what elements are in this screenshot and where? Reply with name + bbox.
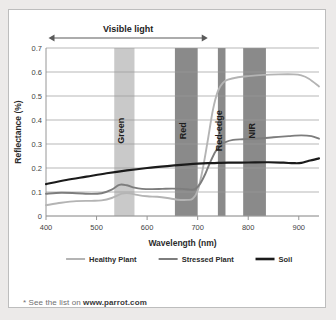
reflectance-chart: 00.10.20.30.40.50.60.7400500600700800900… (9, 10, 327, 272)
y-tick-label: 0 (38, 212, 42, 221)
band-label-red-edge: Red-edge (214, 110, 224, 151)
y-tick-label: 0.7 (32, 44, 42, 53)
x-tick-label: 500 (90, 223, 103, 232)
x-tick-label: 800 (242, 223, 255, 232)
x-axis-title: Wavelength (nm) (148, 238, 216, 248)
x-tick-label: 900 (293, 223, 306, 232)
legend-label-stressed-plant: Stressed Plant (182, 255, 235, 264)
legend-label-healthy-plant: Healthy Plant (89, 255, 137, 264)
band-label-red: Red (178, 122, 188, 139)
y-tick-label: 0.3 (32, 140, 42, 149)
visible-light-label: Visible light (103, 24, 153, 34)
y-tick-label: 0.5 (32, 92, 42, 101)
band-label-green: Green (116, 118, 126, 144)
band-label-nir: NIR (247, 123, 257, 139)
legend-label-soil: Soil (279, 255, 293, 264)
x-tick-label: 400 (40, 223, 53, 232)
y-tick-label: 0.4 (32, 116, 42, 125)
y-axis-title: Reflectance (%) (13, 100, 23, 163)
x-tick-label: 600 (141, 223, 154, 232)
chart-card: 00.10.20.30.40.50.60.7400500600700800900… (8, 9, 326, 308)
chart-area: 00.10.20.30.40.50.60.7400500600700800900… (9, 10, 327, 272)
y-tick-label: 0.2 (32, 164, 42, 173)
footnote-link[interactable]: www.parrot.com (83, 298, 147, 307)
screenshot-root: 00.10.20.30.40.50.60.7400500600700800900… (0, 0, 336, 320)
footnote: * See the list on www.parrot.com (23, 298, 147, 307)
arrow-head-left-icon (49, 35, 55, 42)
arrow-head-right-icon (202, 35, 208, 42)
y-tick-label: 0.1 (32, 188, 42, 197)
footnote-prefix: * See the list on (23, 298, 83, 307)
x-tick-label: 700 (191, 223, 204, 232)
y-tick-label: 0.6 (32, 68, 42, 77)
